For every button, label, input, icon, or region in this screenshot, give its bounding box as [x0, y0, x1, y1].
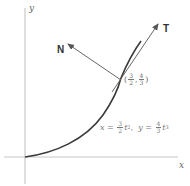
- point-close-paren: ): [145, 76, 148, 84]
- point-comma: ,: [135, 76, 138, 84]
- parametric-curve: [25, 41, 141, 157]
- x-axis-label: x: [179, 161, 184, 170]
- normal-vector: [68, 44, 121, 80]
- y-axis-label: y: [29, 4, 34, 13]
- point-x-fraction: 3 2: [128, 73, 134, 86]
- point-open-paren: (: [124, 76, 127, 84]
- point-label: ( 3 2 , 4 3 ): [124, 73, 148, 86]
- point-y-fraction: 4 3: [139, 73, 145, 86]
- curve-equation: x = 3 2 t2 , y = 4 3 t3: [100, 121, 169, 134]
- diagram-canvas: [0, 0, 190, 186]
- normal-label: N: [57, 45, 64, 55]
- tangent-label: T: [163, 24, 169, 34]
